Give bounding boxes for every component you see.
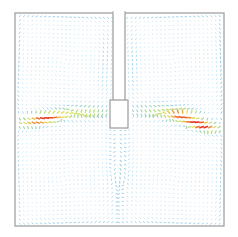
velocity-arrow <box>177 193 179 194</box>
velocity-arrow <box>27 32 28 33</box>
velocity-arrow <box>153 121 155 122</box>
velocity-arrow <box>72 167 73 168</box>
velocity-arrow <box>95 205 96 206</box>
velocity-arrow <box>139 21 140 22</box>
velocity-arrow <box>113 139 115 140</box>
velocity-arrow <box>32 206 33 207</box>
velocity-arrow <box>93 142 94 143</box>
velocity-arrow <box>26 147 27 148</box>
velocity-arrow <box>111 30 112 32</box>
velocity-arrow <box>128 46 129 48</box>
velocity-arrow <box>219 210 220 212</box>
velocity-arrow <box>145 93 146 94</box>
velocity-arrow <box>187 160 189 161</box>
velocity-arrow <box>106 88 107 90</box>
velocity-arrow <box>97 121 99 122</box>
velocity-arrow <box>152 42 153 43</box>
velocity-arrow <box>98 97 99 98</box>
velocity-arrow <box>99 17 101 19</box>
velocity-arrow <box>47 160 48 161</box>
velocity-arrow <box>74 115 76 118</box>
velocity-arrow <box>144 42 145 44</box>
velocity-arrow <box>53 37 55 38</box>
velocity-arrow <box>40 118 45 119</box>
velocity-arrow <box>215 28 216 30</box>
velocity-arrow <box>103 42 104 44</box>
velocity-arrow <box>195 79 196 80</box>
velocity-arrow <box>216 82 217 84</box>
velocity-arrow <box>204 91 205 92</box>
velocity-arrow <box>158 67 159 69</box>
velocity-arrow <box>93 93 94 94</box>
velocity-arrow <box>40 202 41 203</box>
velocity-arrow <box>216 74 217 76</box>
velocity-arrow <box>76 134 78 135</box>
velocity-arrow <box>113 156 115 157</box>
velocity-arrow <box>48 223 50 224</box>
velocity-arrow <box>85 146 87 147</box>
velocity-arrow <box>47 139 49 140</box>
velocity-arrow <box>51 88 53 89</box>
velocity-arrow <box>107 42 108 44</box>
velocity-arrow <box>40 210 41 211</box>
velocity-arrow <box>211 37 212 39</box>
velocity-arrow <box>212 193 213 195</box>
velocity-arrow <box>208 160 209 162</box>
velocity-arrow <box>48 122 52 123</box>
velocity-arrow <box>179 121 183 122</box>
velocity-arrow <box>76 97 78 98</box>
velocity-arrow <box>211 32 212 33</box>
velocity-arrow <box>203 210 204 211</box>
velocity-arrow <box>74 222 76 223</box>
velocity-arrow <box>74 38 76 39</box>
velocity-arrow <box>30 100 31 101</box>
velocity-arrow <box>23 24 24 25</box>
velocity-arrow <box>51 147 53 148</box>
velocity-arrow <box>187 96 189 97</box>
velocity-arrow <box>140 51 141 53</box>
velocity-arrow <box>116 189 118 190</box>
velocity-arrow <box>208 151 209 152</box>
velocity-arrow <box>131 30 132 32</box>
velocity-arrow <box>140 213 141 214</box>
velocity-arrow <box>187 88 189 89</box>
velocity-arrow <box>145 80 146 82</box>
velocity-arrow <box>151 222 153 223</box>
velocity-arrow <box>89 158 90 159</box>
velocity-arrow <box>99 21 100 22</box>
velocity-arrow <box>216 135 217 137</box>
velocity-arrow <box>48 21 50 22</box>
velocity-arrow <box>141 158 142 160</box>
velocity-arrow <box>148 21 150 22</box>
velocity-arrow <box>61 54 63 55</box>
velocity-arrow <box>213 126 217 128</box>
velocity-arrow <box>107 25 108 27</box>
velocity-arrow <box>95 188 96 190</box>
velocity-arrow <box>56 177 57 179</box>
velocity-arrow <box>120 143 122 144</box>
velocity-arrow <box>39 151 40 152</box>
velocity-arrow <box>99 25 100 26</box>
velocity-arrow <box>162 101 164 102</box>
velocity-arrow <box>74 188 75 189</box>
velocity-arrow <box>74 17 76 18</box>
velocity-arrow <box>18 164 19 166</box>
velocity-arrow <box>98 93 99 94</box>
velocity-arrow <box>98 84 99 86</box>
velocity-arrow <box>46 126 48 127</box>
velocity-arrow <box>162 67 163 69</box>
velocity-arrow <box>148 213 149 214</box>
velocity-arrow <box>191 110 192 114</box>
velocity-arrow <box>160 34 162 35</box>
velocity-arrow <box>95 30 96 31</box>
velocity-arrow <box>103 205 104 207</box>
velocity-arrow <box>111 192 113 194</box>
velocity-arrow <box>99 196 100 198</box>
velocity-arrow <box>97 125 99 126</box>
velocity-arrow <box>181 50 182 51</box>
velocity-arrow <box>141 121 143 122</box>
velocity-arrow <box>183 75 185 76</box>
velocity-arrow <box>187 147 189 148</box>
velocity-arrow <box>199 189 200 191</box>
velocity-arrow <box>107 34 108 36</box>
